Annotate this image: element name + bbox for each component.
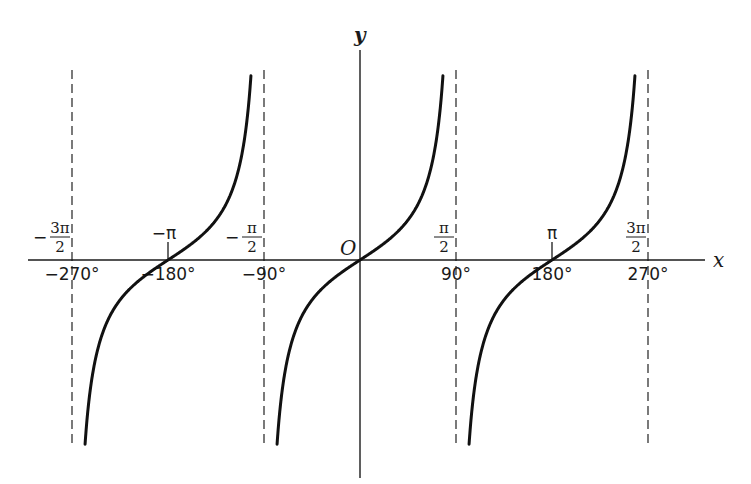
origin-label: O [340,236,356,260]
radian-numerator: 3π [626,219,646,237]
radian-denominator: 2 [631,238,641,256]
degree-tick-label: 270° [628,264,669,284]
radian-numerator: 3π [50,219,70,237]
radian-denominator: 2 [55,238,65,256]
radian-tick-label: π2− [225,219,262,256]
radian-tick-label: 3π2 [626,219,646,256]
radian-denominator: 2 [247,238,257,256]
tangent-chart: −270°3π2−−180°−π−90°π2−90°π2180°π270°3π2… [0,0,751,484]
radian-denominator: 2 [439,238,449,256]
x-axis-label: x [713,248,724,272]
radian-label-text: −π [152,223,176,243]
degree-tick-label: −90° [242,264,286,284]
radian-tick-label: −π [152,223,176,243]
radian-label-text: π [547,223,557,243]
radian-tick-label: π [547,223,557,243]
degree-tick-label: 90° [441,264,471,284]
radian-tick-label: π2 [434,219,454,256]
radian-sign: − [225,227,239,247]
radian-numerator: π [247,219,257,237]
radian-tick-label: 3π2− [33,219,70,256]
degree-tick-label: −270° [44,264,99,284]
radian-sign: − [33,227,47,247]
degree-tick-label: 180° [532,264,573,284]
radian-numerator: π [439,219,449,237]
y-axis-label: y [353,23,367,47]
